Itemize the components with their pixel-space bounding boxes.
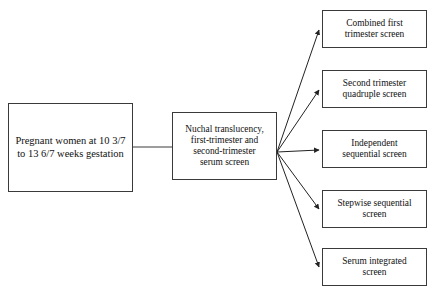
edge-screen-to-serum-integrated — [277, 152, 319, 267]
node-stepwise-sequential-label: Stepwise sequential screen — [333, 198, 415, 220]
node-independent-sequential: Independent sequential screen — [322, 130, 427, 168]
flowchart-canvas: Pregnant women at 10 3/7 to 13 6/7 weeks… — [0, 0, 435, 295]
edge-screen-to-second-trimester-quadruple — [277, 90, 319, 152]
node-combined-first-trimester-label: Combined first trimester screen — [341, 18, 409, 40]
node-serum-integrated: Serum integrated screen — [322, 248, 427, 286]
node-second-trimester-quadruple-label: Second trimester quadruple screen — [339, 78, 411, 100]
node-start-label: Pregnant women at 10 3/7 to 13 6/7 weeks… — [11, 135, 129, 160]
node-screening-tests: Nuchal translucency, first-trimester and… — [172, 112, 277, 180]
edge-screen-to-combined-first-trimester — [277, 30, 319, 152]
edge-screen-to-stepwise-sequential — [277, 152, 319, 209]
node-second-trimester-quadruple: Second trimester quadruple screen — [322, 70, 427, 108]
node-screening-tests-label: Nuchal translucency, first-trimester and… — [181, 124, 268, 168]
edge-screen-to-independent-sequential — [277, 150, 319, 152]
node-stepwise-sequential: Stepwise sequential screen — [322, 190, 427, 228]
node-serum-integrated-label: Serum integrated screen — [338, 256, 410, 278]
node-combined-first-trimester: Combined first trimester screen — [322, 10, 427, 48]
node-start: Pregnant women at 10 3/7 to 13 6/7 weeks… — [8, 103, 133, 192]
node-independent-sequential-label: Independent sequential screen — [338, 138, 410, 160]
